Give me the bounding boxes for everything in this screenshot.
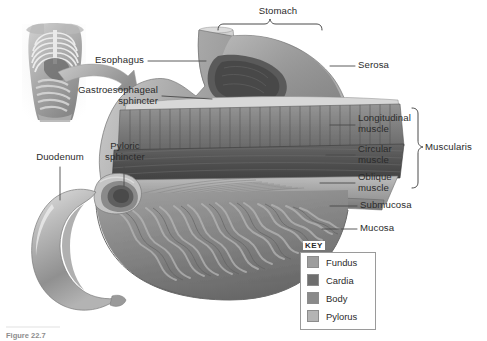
key-label: Fundus: [326, 257, 357, 268]
anatomy-illustration: [0, 0, 487, 341]
key-item: Fundus: [307, 253, 375, 271]
figure-caption: Figure 22.7: [6, 331, 46, 340]
key-item: Pylorus: [307, 307, 375, 325]
label-serosa: Serosa: [358, 60, 389, 71]
muscularis-brace: [412, 108, 423, 188]
key-label: Body: [326, 293, 347, 304]
label-longitudinal-muscle: Longitudinal muscle: [358, 113, 411, 135]
label-pyloric-sphincter: Pyloric sphincter: [96, 141, 154, 163]
key-label: Cardia: [326, 275, 354, 286]
label-circular-muscle: Circular muscle: [358, 144, 392, 166]
key-legend: FundusCardiaBodyPylorus: [300, 252, 376, 330]
key-item: Cardia: [307, 271, 375, 289]
key-swatch-pylorus: [307, 310, 319, 322]
label-oblique-muscle: Oblique muscle: [358, 172, 392, 194]
label-stomach: Stomach: [218, 6, 338, 17]
key-item: Body: [307, 289, 375, 307]
key-swatch-cardia: [307, 274, 319, 286]
label-submucosa: Submucosa: [360, 200, 412, 211]
label-mucosa: Mucosa: [360, 223, 394, 234]
key-title: KEY: [303, 241, 325, 250]
pyloric-sphincter-structure: [94, 173, 141, 214]
key-swatch-body: [307, 292, 319, 304]
stomach-anatomy-figure: Stomach Esophagus Gastroesophageal sphin…: [0, 0, 487, 341]
label-muscularis: Muscularis: [425, 142, 472, 153]
key-swatch-fundus: [307, 256, 319, 268]
stomach-brace: [218, 19, 322, 30]
label-gastroesophageal-sphincter: Gastroesophageal sphincter: [24, 85, 158, 107]
label-esophagus: Esophagus: [40, 55, 144, 66]
key-label: Pylorus: [326, 311, 357, 322]
label-duodenum: Duodenum: [22, 152, 98, 163]
